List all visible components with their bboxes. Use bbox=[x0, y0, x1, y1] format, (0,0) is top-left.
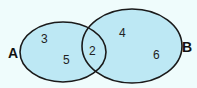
element-a-only-2: 5 bbox=[63, 53, 70, 67]
element-a-only-1: 3 bbox=[41, 32, 48, 46]
element-intersection: 2 bbox=[89, 44, 96, 58]
set-b-label: B bbox=[182, 39, 192, 55]
element-b-only-1: 4 bbox=[119, 26, 126, 40]
element-b-only-2: 6 bbox=[153, 48, 160, 62]
venn-diagram: A B 3 5 2 4 6 bbox=[0, 0, 197, 88]
set-a-label: A bbox=[8, 45, 18, 61]
